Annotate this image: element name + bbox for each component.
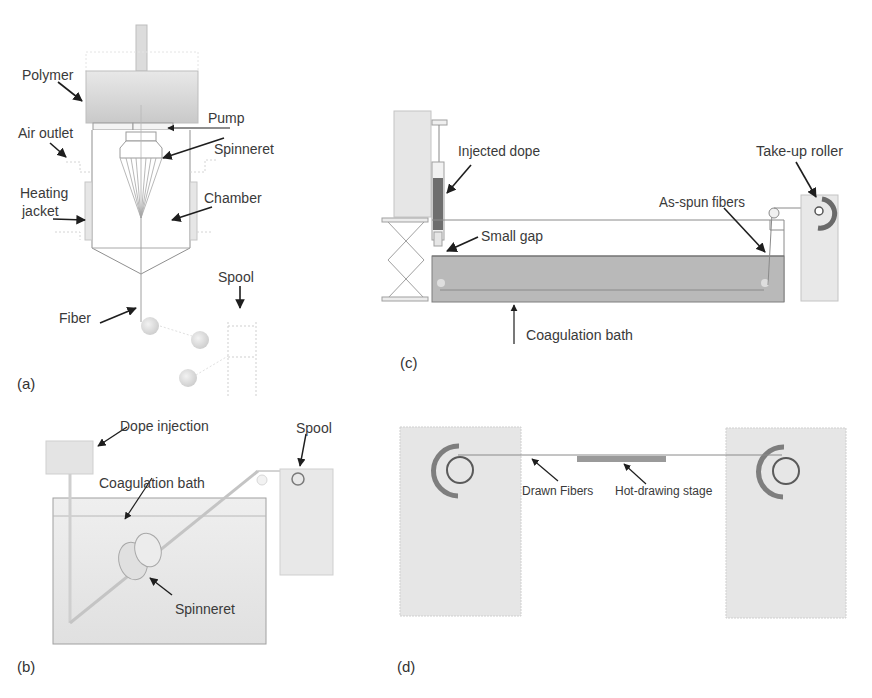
arrow-heating-jacket: [53, 219, 85, 220]
fiber-spinning-figure: Polymer Pump Air outlet Spinneret Heatin…: [0, 0, 872, 698]
label-coagulation-bath-c: Coagulation bath: [526, 327, 633, 343]
guide-pulley-c: [769, 208, 779, 218]
arrow-spool-b: [300, 434, 306, 466]
air-outlet-duct-right: [190, 160, 216, 172]
spool-a: [228, 322, 256, 398]
hot-drawing-stage: [577, 456, 666, 462]
guide-roller-3: [179, 369, 197, 387]
scissor-lift: [382, 218, 428, 301]
injected-dope-fill: [433, 178, 443, 230]
coagulation-bath-c: [432, 256, 784, 302]
panel-tag-b: (b): [17, 658, 35, 675]
heating-jacket-left: [85, 182, 92, 240]
label-pump: Pump: [208, 110, 245, 126]
piston-rod: [136, 25, 147, 71]
polymer-reservoir: [86, 71, 198, 123]
label-drawn-fibers: Drawn Fibers: [522, 484, 593, 498]
arrow-drawn-fibers: [532, 459, 558, 481]
panel-tag-a: (a): [17, 375, 35, 392]
panel-d-hot-drawing: Drawn Fibers Hot-drawing stage (d): [397, 427, 846, 675]
guide-roller-1: [141, 317, 159, 335]
panel-tag-c: (c): [400, 354, 418, 371]
syringe-plunger-head: [432, 120, 447, 125]
guide-roller-2: [191, 331, 209, 349]
label-hot-drawing-stage: Hot-drawing stage: [615, 484, 713, 498]
label-spinneret-b: Spinneret: [175, 601, 235, 617]
label-air-outlet: Air outlet: [18, 125, 73, 141]
label-heating: Heating: [20, 185, 68, 201]
dope-injection-box: [46, 441, 93, 474]
panel-b-wet-spinning-vertical: Dope injection Spool Coagulation bath Sp…: [17, 418, 333, 675]
heating-jacket-right: [190, 182, 197, 240]
syringe-pump-box: [394, 111, 431, 217]
label-spool-a: Spool: [218, 269, 254, 285]
label-spool-b: Spool: [296, 420, 332, 436]
panel-a-melt-spinning: Polymer Pump Air outlet Spinneret Heatin…: [17, 25, 274, 398]
air-outlet-duct-left: [66, 162, 92, 172]
arrow-small-gap: [447, 237, 478, 251]
take-up-roller: [815, 207, 823, 215]
label-spinneret: Spinneret: [214, 141, 274, 157]
label-dope-injection: Dope injection: [120, 418, 209, 434]
panel-tag-d: (d): [397, 658, 415, 675]
spool-box-b: [280, 469, 333, 575]
roller-box-right: [726, 428, 846, 618]
coagulation-bath-b: [53, 498, 266, 644]
label-small-gap: Small gap: [481, 228, 543, 244]
label-chamber: Chamber: [204, 190, 262, 206]
label-injected-dope: Injected dope: [458, 143, 540, 159]
panel-c-wet-spinning-horizontal: Injected dope Take-up roller As-spun fib…: [382, 111, 843, 371]
arrow-air-outlet: [50, 143, 66, 157]
label-take-up-roller: Take-up roller: [756, 143, 843, 159]
pump-blocks: [93, 123, 173, 130]
arrow-take-up-roller: [796, 162, 816, 197]
arrow-injected-dope: [447, 165, 471, 193]
arrow-as-spun-fibers: [724, 208, 765, 252]
label-as-spun-fibers: As-spun fibers: [659, 194, 745, 210]
label-fiber: Fiber: [59, 310, 91, 326]
label-coagulation-bath-b: Coagulation bath: [99, 475, 205, 491]
label-polymer: Polymer: [22, 67, 74, 83]
label-jacket: jacket: [21, 203, 59, 219]
arrow-fiber: [100, 308, 136, 323]
arrow-hot-drawing-stage: [624, 464, 646, 484]
arrow-polymer: [58, 82, 82, 101]
